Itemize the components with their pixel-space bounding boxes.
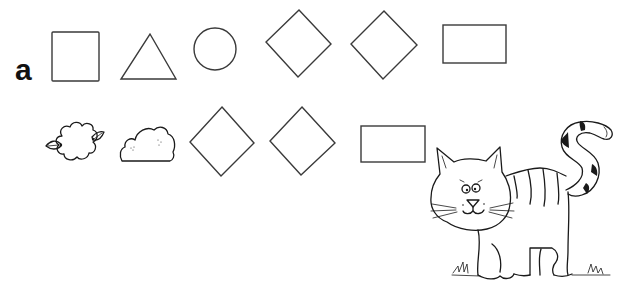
row-1-shapes xyxy=(52,10,506,81)
diamond-shape-3 xyxy=(190,107,254,176)
diamond-shape-4 xyxy=(270,107,335,175)
diamond-shape-1 xyxy=(266,10,331,77)
square-shape xyxy=(52,32,99,81)
rectangle-shape-1 xyxy=(443,25,506,63)
triangle-shape xyxy=(121,34,176,79)
circle-shape xyxy=(194,28,236,70)
flower-icon xyxy=(46,122,104,159)
rectangle-shape-2 xyxy=(361,126,425,162)
row-2-shapes xyxy=(46,107,425,176)
cat-illustration xyxy=(431,121,612,279)
cloud-icon xyxy=(120,127,174,161)
diamond-shape-2 xyxy=(351,11,417,79)
